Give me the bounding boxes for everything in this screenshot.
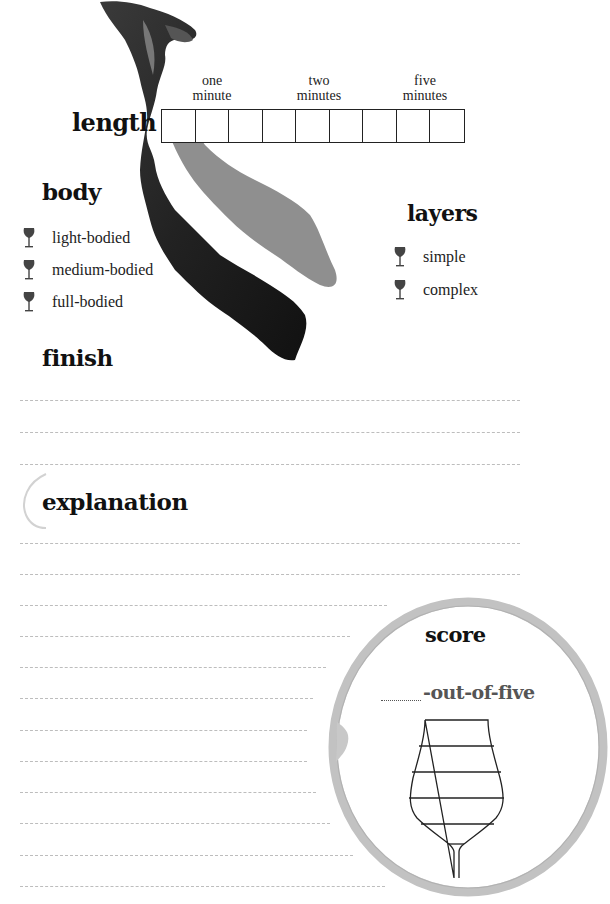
length-box-4[interactable] <box>263 110 297 142</box>
body-option-label: light-bodied <box>52 229 130 247</box>
explanation-writing-line[interactable] <box>20 636 350 637</box>
explanation-writing-line[interactable] <box>20 543 520 544</box>
score-glass-diagram[interactable] <box>408 718 508 882</box>
explanation-writing-line[interactable] <box>20 698 313 699</box>
watercolor-stain-decoration <box>95 0 355 365</box>
explanation-writing-line[interactable] <box>20 761 307 762</box>
score-title: score <box>425 622 486 647</box>
length-checkbox-grid <box>161 109 465 143</box>
wine-glass-icon <box>22 259 36 281</box>
length-box-6[interactable] <box>330 110 364 142</box>
wine-glass-icon <box>393 246 407 268</box>
wine-glass-icon <box>22 291 36 313</box>
body-option-label: medium-bodied <box>52 261 153 279</box>
length-marker-five-minutes: five minutes <box>380 73 470 103</box>
explanation-writing-line[interactable] <box>20 574 520 575</box>
layers-option-simple[interactable]: simple <box>393 246 466 268</box>
length-box-5[interactable] <box>296 110 330 142</box>
score-input-line[interactable] <box>381 700 421 701</box>
explanation-writing-line[interactable] <box>20 792 316 793</box>
body-option-medium[interactable]: medium-bodied <box>22 259 153 281</box>
length-box-3[interactable] <box>229 110 263 142</box>
length-title: length <box>72 108 156 137</box>
finish-writing-line[interactable] <box>20 432 520 433</box>
body-option-light[interactable]: light-bodied <box>22 227 130 249</box>
score-suffix: -out-of-five <box>423 681 535 703</box>
wine-glass-icon <box>393 279 407 301</box>
explanation-writing-line[interactable] <box>20 667 326 668</box>
explanation-writing-line[interactable] <box>20 855 353 856</box>
finish-title: finish <box>42 344 113 371</box>
wine-glass-icon <box>22 227 36 249</box>
length-marker-two-minutes: two minutes <box>274 73 364 103</box>
layers-title: layers <box>407 200 477 226</box>
length-box-8[interactable] <box>397 110 431 142</box>
length-box-2[interactable] <box>196 110 230 142</box>
layers-option-label: simple <box>423 248 466 266</box>
body-option-label: full-bodied <box>52 293 123 311</box>
length-box-1[interactable] <box>162 110 196 142</box>
body-title: body <box>42 178 101 205</box>
length-box-7[interactable] <box>363 110 397 142</box>
layers-option-label: complex <box>423 281 478 299</box>
body-option-full[interactable]: full-bodied <box>22 291 123 313</box>
explanation-writing-line[interactable] <box>20 730 307 731</box>
finish-writing-line[interactable] <box>20 400 520 401</box>
layers-option-complex[interactable]: complex <box>393 279 478 301</box>
length-box-9[interactable] <box>430 110 464 142</box>
length-marker-one-minute: one minute <box>167 73 257 103</box>
explanation-writing-line[interactable] <box>20 823 330 824</box>
explanation-title: explanation <box>42 488 188 515</box>
finish-writing-line[interactable] <box>20 464 520 465</box>
